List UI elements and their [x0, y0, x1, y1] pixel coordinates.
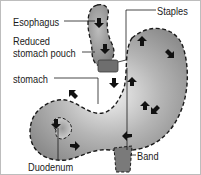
esophagus-label: Esophagus	[13, 16, 59, 28]
reduced-pouch-label-line2: stomach pouch	[13, 47, 76, 59]
reduced-stomach-pouch	[88, 5, 114, 67]
staples-shape	[98, 60, 118, 72]
staples-label: Staples	[157, 5, 188, 17]
band-label: Band	[137, 150, 159, 162]
arrow-left-icon	[69, 90, 78, 99]
band-shape	[114, 146, 132, 172]
arrow-down-icon	[109, 78, 119, 88]
reduced-pouch-label-line1: Reduced	[13, 35, 50, 47]
duodenum-label: Duodenum	[28, 161, 73, 173]
stomach-label: stomach	[13, 73, 48, 85]
